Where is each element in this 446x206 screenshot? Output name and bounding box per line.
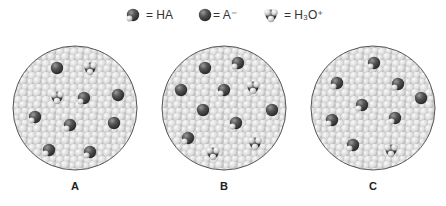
a-minus-ion-icon <box>51 62 63 74</box>
solution-panel-c <box>311 46 435 170</box>
a-minus-ion-icon <box>266 104 278 116</box>
solution-panel-b <box>162 46 286 170</box>
diagram-canvas <box>0 0 446 206</box>
a-minus-ion-icon <box>108 117 120 129</box>
solution-panel-a <box>13 46 137 170</box>
a-minus-ion-icon <box>112 89 124 101</box>
panel-label-c: C <box>358 180 388 192</box>
a-minus-ion-icon <box>175 84 187 96</box>
a-minus-ion-icon <box>197 104 209 116</box>
a-minus-ion-icon <box>199 62 211 74</box>
legend: = HA = A⁻ = H₃O⁺ <box>0 4 446 26</box>
legend-item-ha: = HA <box>143 4 173 26</box>
panel-label-b: B <box>209 180 239 192</box>
legend-item-hydronium: = H₃O⁺ <box>281 4 323 26</box>
legend-label-a-minus: = A⁻ <box>213 8 237 22</box>
water-background <box>13 46 137 170</box>
panel-label-a: A <box>60 180 90 192</box>
legend-label-hydronium: = H₃O⁺ <box>284 8 323 22</box>
legend-item-a-minus: = A⁻ <box>210 4 237 26</box>
legend-label-ha: = HA <box>146 8 173 22</box>
a-minus-ion-icon <box>415 92 427 104</box>
